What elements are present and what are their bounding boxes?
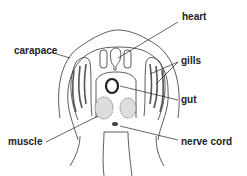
label-muscle: muscle (8, 137, 42, 147)
heart-shape (110, 48, 120, 70)
body-outline (68, 47, 169, 140)
label-gills: gills (181, 56, 201, 66)
muscle-right (120, 98, 136, 118)
label-nerve-cord: nerve cord (181, 137, 232, 147)
leg-left (70, 136, 80, 166)
lower-body (103, 132, 132, 176)
label-heart: heart (182, 12, 206, 22)
nerve-cord-shape (112, 122, 118, 126)
leader-nerve-cord (120, 126, 178, 140)
label-gut: gut (181, 95, 197, 105)
anatomy-diagram (0, 0, 247, 176)
leg-right (156, 136, 164, 166)
muscle-left (95, 97, 113, 119)
gill-chamber-right (144, 58, 165, 121)
label-carapace: carapace (14, 46, 57, 56)
gut-shape (106, 79, 118, 93)
pericardial-left (100, 50, 107, 68)
gill-chamber-left (71, 58, 92, 121)
